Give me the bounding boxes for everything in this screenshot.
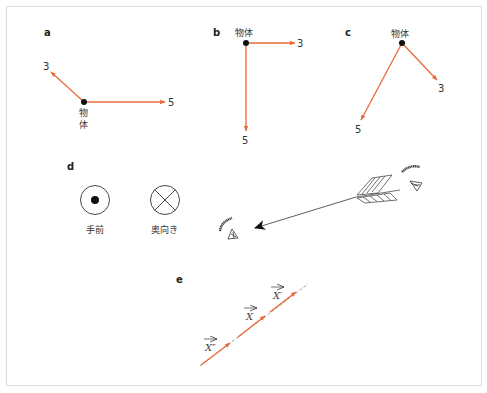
object-label-2: 体: [79, 119, 88, 130]
away-from-viewer-label: 奥向き: [151, 224, 178, 235]
panel-b: b 物体 3 5: [213, 27, 303, 146]
svg-text:X: X: [245, 311, 254, 322]
panel-d: d 手前 奥向き: [67, 161, 422, 239]
vector-3-arrow: [402, 43, 437, 80]
object-point: [243, 40, 249, 46]
panel-e-label: e: [176, 274, 183, 285]
vector-5-label: 5: [355, 124, 361, 135]
panel-b-label: b: [213, 27, 220, 38]
toward-viewer-symbol: [81, 186, 110, 215]
panel-d-label: d: [67, 161, 74, 172]
vector-3-arrow: [51, 72, 84, 102]
arrow-fletching: [356, 175, 400, 203]
object-label-1: 物: [79, 107, 88, 118]
vector-label-x-double-prime: X″: [204, 339, 217, 353]
object-point: [81, 99, 87, 105]
vector-3-label: 3: [43, 61, 49, 72]
arrow-illustration: [255, 175, 400, 228]
panel-a-label: a: [44, 27, 51, 38]
object-point: [399, 40, 405, 46]
away-from-viewer-symbol: [151, 186, 180, 215]
eye-icon: [402, 166, 422, 191]
panel-c: c 物体 3 5: [345, 27, 444, 135]
panel-c-label: c: [345, 27, 351, 38]
object-label: 物体: [391, 28, 409, 39]
vector-5-label: 5: [168, 97, 174, 108]
vector-3-label: 3: [297, 38, 303, 49]
object-label: 物体: [235, 27, 253, 38]
panel-a: a 3 5 物 体: [43, 27, 174, 130]
svg-text:X′: X′: [272, 290, 283, 301]
arrow-shaft: [255, 197, 356, 228]
vector-3-label: 3: [438, 83, 444, 94]
toward-viewer-label: 手前: [86, 224, 104, 235]
diagram-canvas: a 3 5 物 体 b 物体 3 5 c 物体 3 5 d 手前: [0, 0, 487, 393]
svg-text:X″: X″: [204, 342, 216, 353]
vector-label-x: X: [244, 308, 257, 322]
vector-label-x-prime: X′: [271, 287, 284, 301]
eye-icon: [220, 218, 238, 239]
vector-5-arrow: [361, 43, 402, 120]
panel-e: e X″ X X′: [176, 274, 308, 366]
vector-5-label: 5: [242, 135, 248, 146]
